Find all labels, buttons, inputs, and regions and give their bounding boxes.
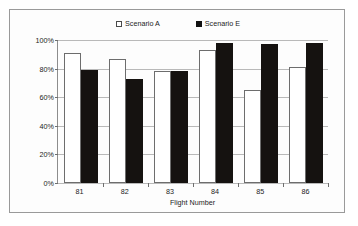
bar-group: [283, 40, 328, 183]
plot-area: 0%20%40%60%80%100%: [57, 40, 328, 184]
bar-scenario-e: [81, 70, 98, 183]
x-axis-tick-labels: 818283848586: [57, 187, 328, 196]
x-axis-tick-label: 81: [57, 187, 102, 196]
chart-container: Scenario A Scenario E 0%20%40%60%80%100%…: [9, 9, 345, 213]
legend-label-scenario-a: Scenario A: [125, 19, 160, 28]
x-axis-tick-mark: [328, 183, 329, 187]
x-axis-title: Flight Number: [57, 198, 328, 207]
x-axis-tick-label: 86: [283, 187, 328, 196]
legend-swatch-filled-square-icon: [196, 21, 202, 27]
x-axis-tick-label: 84: [193, 187, 238, 196]
chart-legend: Scenario A Scenario E: [10, 19, 346, 28]
bar-scenario-a: [199, 50, 216, 183]
legend-label-scenario-e: Scenario E: [205, 19, 240, 28]
bar-scenario-a: [154, 71, 171, 183]
bar-group: [103, 40, 148, 183]
bar-scenario-e: [261, 44, 278, 183]
y-axis-tick-label: 60%: [40, 93, 54, 102]
bar-scenario-a: [244, 90, 261, 183]
bar-group: [58, 40, 103, 183]
bar-group: [193, 40, 238, 183]
bar-scenario-a: [109, 59, 126, 183]
bar-group: [148, 40, 193, 183]
legend-item-scenario-e: Scenario E: [196, 19, 240, 28]
bar-scenario-e: [126, 79, 143, 183]
y-axis-tick-label: 100%: [36, 36, 54, 45]
y-axis-tick-mark: [55, 183, 58, 184]
legend-swatch-open-square-icon: [116, 21, 122, 27]
bar-scenario-e: [171, 71, 188, 183]
bar-scenario-e: [306, 43, 323, 183]
y-axis-tick-label: 0%: [44, 179, 54, 188]
bar-scenario-a: [289, 67, 306, 183]
bar-scenario-a: [64, 53, 81, 183]
bar-scenario-e: [216, 43, 233, 183]
y-axis-tick-label: 80%: [40, 64, 54, 73]
bar-groups: [58, 40, 328, 183]
legend-item-scenario-a: Scenario A: [116, 19, 160, 28]
bar-group: [238, 40, 283, 183]
x-axis-tick-label: 82: [102, 187, 147, 196]
y-axis-tick-label: 40%: [40, 121, 54, 130]
x-axis-tick-label: 85: [238, 187, 283, 196]
x-axis-tick-label: 83: [147, 187, 192, 196]
y-axis-tick-label: 20%: [40, 150, 54, 159]
